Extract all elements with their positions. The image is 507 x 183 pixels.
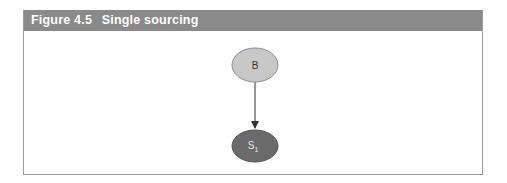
node-s1: S1 xyxy=(232,130,278,162)
node-b-label: B xyxy=(252,60,259,71)
node-b: B xyxy=(232,48,278,82)
diagram-canvas: B S1 xyxy=(0,0,507,183)
node-s1-subscript: 1 xyxy=(254,146,258,153)
